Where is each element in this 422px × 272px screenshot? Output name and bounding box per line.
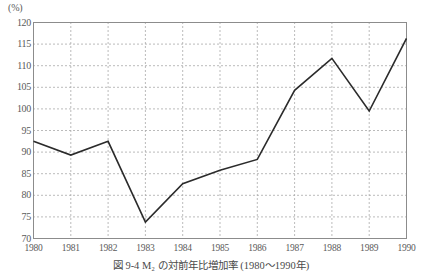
x-axis-tick-1990: 1990 bbox=[387, 243, 422, 254]
figure-caption: 図 9-4 M₂ の対前年比増加率 (1980～1990年) bbox=[0, 259, 422, 272]
grid-lines bbox=[33, 22, 407, 239]
x-axis-tick-1983: 1983 bbox=[125, 243, 165, 254]
x-axis-tick-1980: 1980 bbox=[14, 243, 54, 254]
x-axis-tick-1985: 1985 bbox=[200, 243, 240, 254]
x-axis-tick-1986: 1986 bbox=[237, 243, 277, 254]
x-axis-tick-1987: 1987 bbox=[275, 243, 315, 254]
x-axis-tick-1984: 1984 bbox=[163, 243, 203, 254]
line-chart-svg bbox=[33, 22, 407, 239]
x-axis-tick-1982: 1982 bbox=[88, 243, 128, 254]
x-axis-tick-1988: 1988 bbox=[312, 243, 352, 254]
plot-area bbox=[33, 22, 407, 239]
x-axis-tick-1989: 1989 bbox=[349, 243, 389, 254]
x-axis-tick-1981: 1981 bbox=[51, 243, 91, 254]
